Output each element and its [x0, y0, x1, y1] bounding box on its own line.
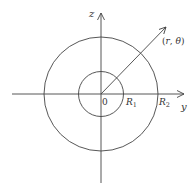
point-label: (r, θ) — [162, 36, 185, 46]
origin-label: 0 — [102, 97, 108, 107]
r1-label: R1 — [125, 97, 137, 109]
r2-label: R2 — [158, 97, 170, 109]
y-axis-label: y — [180, 101, 187, 112]
polar-coordinate-diagram: z y 0 R1 R2 (r, θ) — [0, 0, 196, 192]
radial-vector-arrow — [101, 27, 166, 94]
z-axis-label: z — [88, 8, 95, 19]
